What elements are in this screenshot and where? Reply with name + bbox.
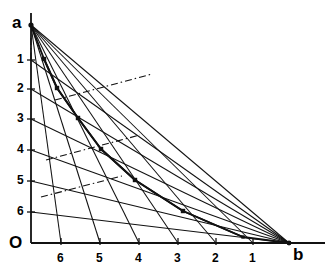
- zigzag-vertex-dot-5: [133, 178, 137, 182]
- left-axis-tick-label-6: 6: [17, 205, 24, 217]
- zigzag-vertex-dot-2: [55, 86, 59, 90]
- vertex-label-b: b: [293, 246, 303, 263]
- bottom-axis-tick-label-1: 1: [249, 252, 256, 264]
- bottom-axis-tick-label-6: 6: [57, 252, 64, 264]
- left-axis-tick-label-4: 4: [17, 143, 24, 155]
- left-axis-tick-label-2: 2: [17, 82, 24, 94]
- zigzag-vertex-dot-7: [241, 235, 244, 238]
- vertex-label-origin: O: [9, 234, 22, 251]
- left-axis-tick-label-1: 1: [17, 53, 24, 65]
- left-axis-tick-label-5: 5: [17, 174, 24, 186]
- ray-b-to-1: [31, 89, 289, 243]
- ray-b-to-2: [31, 119, 289, 243]
- bottom-axis-tick-label-3: 3: [174, 252, 181, 264]
- ray-a-to-5: [31, 25, 253, 243]
- zigzag-vertex-dot-6: [181, 209, 185, 213]
- figure-canvas: a O b 123456 654321: [0, 0, 331, 269]
- ray-a-to-3: [31, 25, 178, 243]
- ray-a-to-4: [31, 25, 216, 243]
- ray-b-to-4: [31, 181, 289, 243]
- nomogram-svg: [0, 0, 331, 269]
- zigzag-vertex-dot-3: [76, 116, 80, 120]
- zigzag-vertex-dot-4: [99, 147, 103, 151]
- zigzag-vertex-dot-1: [42, 57, 46, 61]
- zigzag-polyline-secondary: [44, 59, 243, 237]
- bottom-axis-tick-label-5: 5: [96, 252, 103, 264]
- ray-a-to-2: [31, 25, 139, 243]
- bottom-axis-tick-label-2: 2: [212, 252, 219, 264]
- fan-from-apex-a-group: [31, 25, 289, 243]
- vertex-label-a: a: [12, 14, 21, 31]
- left-axis-tick-label-3: 3: [17, 112, 24, 124]
- ray-a-to-6: [31, 25, 289, 243]
- bottom-axis-tick-label-4: 4: [135, 252, 142, 264]
